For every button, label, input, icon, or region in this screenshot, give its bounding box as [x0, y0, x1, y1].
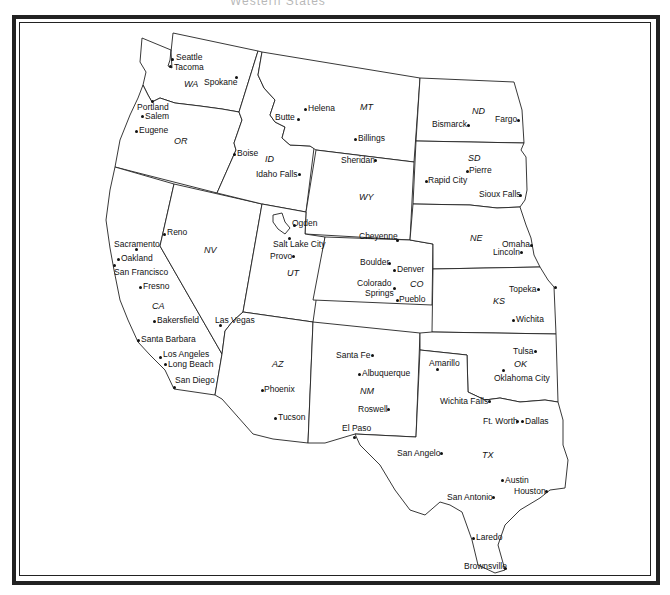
city-label-santa-barbara: Santa Barbara [141, 335, 196, 344]
city-dot-provo [292, 255, 295, 258]
city-dot-reno [163, 233, 166, 236]
state-nd [416, 78, 524, 143]
city-dot-wichita [512, 319, 515, 322]
western-us-map [0, 0, 670, 595]
city-label-reno: Reno [167, 228, 187, 237]
city-label-long-beach: Long Beach [168, 360, 213, 369]
city-label-dallas: Dallas [525, 417, 549, 426]
state-label-id: ID [265, 155, 274, 164]
city-dot-albuquerque [358, 373, 361, 376]
map-title: Western States [230, 0, 326, 8]
state-label-ca: CA [152, 302, 165, 311]
city-label-fresno: Fresno [143, 282, 169, 291]
city-label-san-francisco: San Francisco [114, 268, 168, 277]
city-dot-fargo [517, 119, 520, 122]
city-label-laredo: Laredo [476, 533, 502, 542]
city-label-las-vegas: Las Vegas [215, 316, 255, 325]
city-dot-butte [297, 118, 300, 121]
city-label-roswell: Roswell [358, 405, 388, 414]
state-label-nm: NM [360, 387, 374, 396]
city-dot-san-diego [173, 386, 176, 389]
state-label-ne: NE [470, 234, 483, 243]
city-label-springs: Springs [365, 289, 394, 298]
city-label-oklahoma-city: Oklahoma City [494, 374, 550, 383]
city-label-eugene: Eugene [139, 126, 168, 135]
city-label-provo: Provo [270, 252, 292, 261]
city-label-santa-fe: Santa Fe [336, 351, 371, 360]
city-dot-tacoma [169, 65, 172, 68]
city-label-phoenix: Phoenix [264, 385, 295, 394]
city-dot-santa-barbara [137, 339, 140, 342]
city-dot-amarillo [436, 368, 439, 371]
state-label-ut: UT [287, 269, 299, 278]
city-dot-santa-fe [371, 354, 374, 357]
city-dot-billings [354, 138, 357, 141]
state-label-nd: ND [472, 107, 485, 116]
city-label-wichita-falls: Wichita Falls [440, 397, 488, 406]
city-label-butte: Butte [275, 113, 295, 122]
city-label-topeka: Topeka [509, 285, 536, 294]
city-dot-long-beach [164, 363, 167, 366]
city-label-sioux-falls: Sioux Falls [479, 190, 521, 199]
city-dot-kansas-city [554, 286, 557, 289]
city-dot-wichita-falls [488, 400, 491, 403]
city-dot-tulsa [534, 350, 537, 353]
city-dot-bismarck [467, 124, 470, 127]
city-dot-oklahoma-city [502, 369, 505, 372]
city-label-san-antonio: San Antonio [447, 493, 493, 502]
city-label-el-paso: El Paso [342, 424, 371, 433]
state-label-mt: MT [360, 103, 373, 112]
city-dot-lincoln [520, 251, 523, 254]
city-label-boulder: Boulder [360, 258, 389, 267]
city-label-sacramento: Sacramento [114, 240, 160, 249]
city-label-boise: Boise [237, 149, 258, 158]
state-label-or: OR [174, 137, 188, 146]
city-label-helena: Helena [308, 104, 335, 113]
state-label-tx: TX [482, 451, 494, 460]
city-dot-denver [393, 269, 396, 272]
city-label-denver: Denver [397, 265, 424, 274]
city-label-ogden: Ogden [292, 219, 318, 228]
state-label-ok: OK [514, 360, 527, 369]
city-label-salem: Salem [145, 112, 169, 121]
city-label-pueblo: Pueblo [399, 295, 425, 304]
city-label-fargo: Fargo [495, 115, 517, 124]
city-dot-boise [233, 153, 236, 156]
city-label-spokane: Spokane [204, 78, 238, 87]
city-label-pierre: Pierre [469, 166, 492, 175]
state-label-wa: WA [184, 80, 198, 89]
city-label-albuquerque: Albuquerque [362, 369, 410, 378]
city-dot-salem [141, 115, 144, 118]
city-dot-eugene [135, 130, 138, 133]
city-label-cheyenne: Cheyenne [359, 232, 398, 241]
city-label-idaho-falls: Idaho Falls [256, 170, 298, 179]
state-label-sd: SD [468, 154, 481, 163]
city-label-amarillo: Amarillo [429, 359, 460, 368]
city-label-bismarck: Bismarck [432, 120, 467, 129]
city-label-salt-lake-city: Salt Lake City [273, 240, 325, 249]
city-label-tucson: Tucson [278, 413, 306, 422]
state-label-wy: WY [359, 193, 374, 202]
city-label-houston: Houston [514, 487, 546, 496]
city-label-san-angelo: San Angelo [397, 449, 440, 458]
state-az [215, 312, 313, 443]
city-label-tulsa: Tulsa [513, 347, 533, 356]
state-label-nv: NV [204, 246, 217, 255]
city-dot-omaha [530, 244, 533, 247]
city-dot-bakersfield [153, 320, 156, 323]
state-label-co: CO [410, 280, 424, 289]
city-dot-laredo [472, 537, 475, 540]
city-label-brownsville: Brownsville [464, 562, 507, 571]
city-label-sheridan: Sheridan [341, 156, 375, 165]
city-label-billings: Billings [358, 134, 385, 143]
city-dot-idaho-falls [298, 173, 301, 176]
city-dot-el-paso [353, 436, 356, 439]
city-dot-oakland [117, 258, 120, 261]
city-dot-tucson [274, 417, 277, 420]
city-label-austin: Austin [505, 476, 529, 485]
city-label-oakland: Oakland [121, 254, 153, 263]
city-label-los-angeles: Los Angeles [163, 350, 209, 359]
city-label-tacoma: Tacoma [174, 63, 204, 72]
city-dot-los-angeles [159, 356, 162, 359]
city-label-colorado: Colorado [357, 279, 392, 288]
